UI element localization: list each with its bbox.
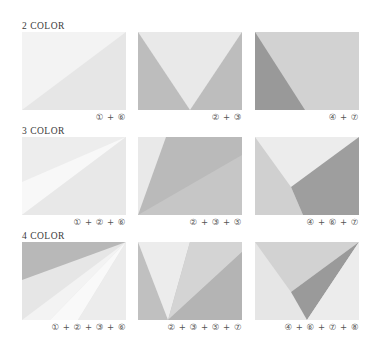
swatch-2color-c [255,32,359,110]
swatch-3color-a [22,137,126,215]
swatch-4color-c [255,242,359,320]
swatch-2color-a [22,32,126,110]
swatch-caption: ② + ③ [138,112,242,122]
swatch-caption: ① + ② + ⑥ [22,217,126,227]
heading-4-color: 4 COLOR [22,231,65,241]
swatch-4color-b [138,242,242,320]
swatch-caption: ② + ③ + ⑤ [138,217,242,227]
swatch-3color-c [255,137,359,215]
swatch-2color-b [138,32,242,110]
swatch-3color-b [138,137,242,215]
swatch-4color-a [22,242,126,320]
swatch-caption: ② + ③ + ⑤ + ⑦ [138,322,242,332]
swatch-caption: ① + ⑥ [22,112,126,122]
swatch-caption: ④ + ⑥ + ⑦ + ⑧ [255,322,359,332]
heading-3-color: 3 COLOR [22,126,65,136]
swatch-caption: ① + ② + ③ + ⑥ [22,322,126,332]
heading-2-color: 2 COLOR [22,21,65,31]
swatch-caption: ④ + ⑥ + ⑦ [255,217,359,227]
swatch-caption: ④ + ⑦ [255,112,359,122]
